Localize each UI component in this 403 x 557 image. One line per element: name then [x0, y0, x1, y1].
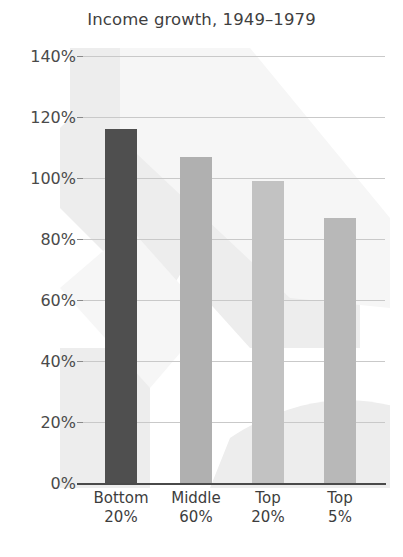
y-axis-tick-label: 20%	[40, 413, 76, 432]
y-axis-tick-label: 60%	[40, 291, 76, 310]
y-axis-tick-label: 100%	[30, 169, 76, 188]
gridline	[82, 56, 385, 57]
y-axis-tick-label: 40%	[40, 352, 76, 371]
x-axis-tick-label-line1: Top	[290, 489, 390, 508]
bar[interactable]	[324, 218, 356, 483]
plot-area: 0%20%40%60%80%100%120%140%Bottom20%Middl…	[0, 0, 403, 557]
y-axis-tick-label: 80%	[40, 230, 76, 249]
bar[interactable]	[180, 157, 212, 483]
x-axis-tick-label: Top5%	[290, 489, 390, 527]
y-axis-tick-mark	[77, 117, 83, 118]
chart-container: Income growth, 1949–1979 0%20%40%60%80%1…	[0, 0, 403, 557]
y-axis-tick-mark	[77, 178, 83, 179]
y-axis-tick-mark	[77, 361, 83, 362]
y-axis-tick-mark	[77, 239, 83, 240]
gridline	[82, 117, 385, 118]
bar[interactable]	[252, 181, 284, 483]
y-axis-tick-mark	[77, 56, 83, 57]
y-axis-tick-label: 140%	[30, 47, 76, 66]
x-axis-tick-label-line2: 5%	[290, 508, 390, 527]
bar[interactable]	[105, 129, 137, 483]
x-axis-line	[77, 483, 386, 485]
y-axis-tick-mark	[77, 300, 83, 301]
y-axis-tick-label: 120%	[30, 108, 76, 127]
y-axis-tick-mark	[77, 422, 83, 423]
